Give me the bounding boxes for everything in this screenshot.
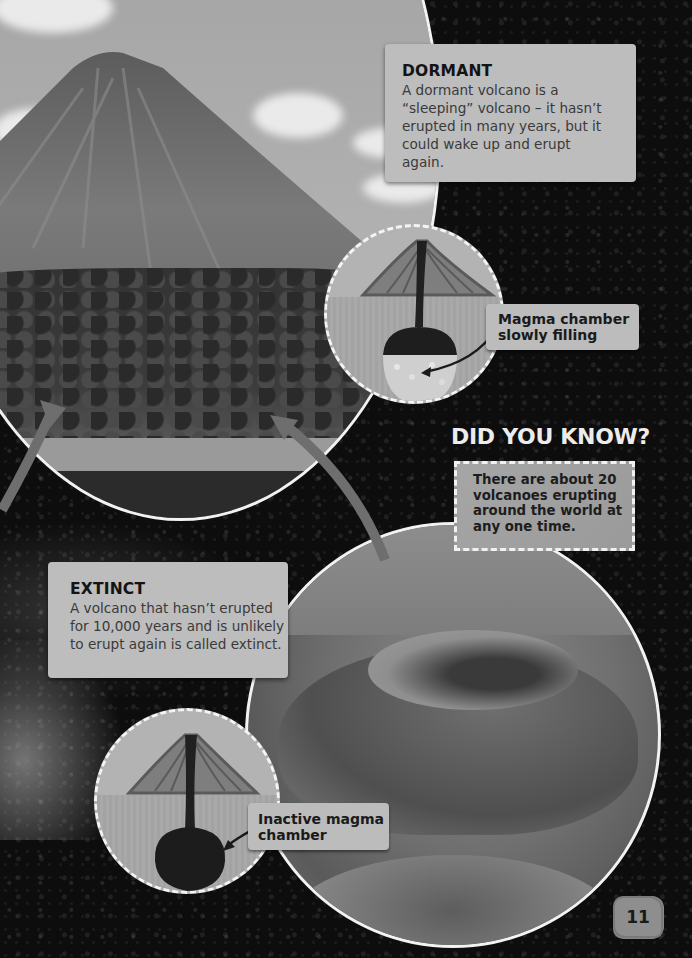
- foreground-mound: [288, 855, 618, 948]
- did-you-know-title: DID YOU KNOW?: [451, 424, 650, 449]
- magma-chamber-filling-label: Magma chamber slowly filling: [486, 304, 639, 350]
- extinct-description: A volcano that hasn’t erupted for 10,000…: [70, 599, 288, 653]
- crater: [368, 630, 578, 710]
- dormant-volcano-diagram: [324, 224, 504, 404]
- did-you-know-box: There are about 20 volcanoes erupting ar…: [454, 461, 635, 551]
- extinct-info-panel: EXTINCT A volcano that hasn’t erupted fo…: [48, 562, 288, 678]
- extinct-volcano-photo: [245, 522, 661, 948]
- did-you-know-fact: There are about 20 volcanoes erupting ar…: [473, 472, 632, 534]
- volcano-cross-section-icon: [327, 227, 501, 401]
- book-page: DORMANT A dormant volcano is a “sleeping…: [0, 0, 692, 958]
- page-number: 11: [615, 898, 661, 936]
- volcano-cross-section-icon: [97, 711, 277, 891]
- lake: [0, 471, 438, 521]
- dormant-info-panel: DORMANT A dormant volcano is a “sleeping…: [385, 44, 636, 182]
- dormant-heading: DORMANT: [402, 62, 636, 80]
- shore: [0, 453, 438, 473]
- dormant-description: A dormant volcano is a “sleeping” volcan…: [402, 81, 612, 171]
- extinct-heading: EXTINCT: [70, 580, 288, 598]
- inactive-magma-chamber-label: Inactive magma chamber: [248, 803, 389, 850]
- extinct-volcano-diagram: [94, 708, 280, 894]
